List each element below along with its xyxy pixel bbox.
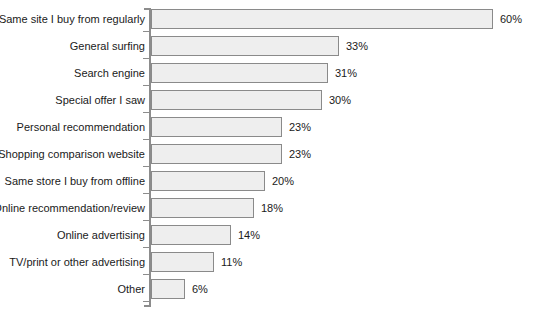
bar <box>151 9 493 29</box>
axis-tick <box>143 301 150 302</box>
axis-tick <box>143 31 150 32</box>
axis-tick <box>143 85 150 86</box>
category-label: Online advertising <box>57 224 145 247</box>
bar-value-label: 23% <box>289 116 311 138</box>
bar <box>151 36 339 56</box>
axis-tick <box>143 274 150 275</box>
bar-value-label: 6% <box>192 278 208 300</box>
bar-row: Search engine31% <box>0 62 536 89</box>
bar-row: Special offer I saw30% <box>0 89 536 116</box>
bar <box>151 252 214 272</box>
axis-tick <box>143 139 150 140</box>
bar <box>151 279 185 299</box>
category-label: Personal recommendation <box>17 116 145 139</box>
bar-value-label: 18% <box>261 197 283 219</box>
bar <box>151 225 231 245</box>
category-label: Other <box>117 278 145 301</box>
category-label: Special offer I saw <box>55 89 145 112</box>
bar-row: Shopping comparison website23% <box>0 143 536 170</box>
bar-row: Personal recommendation23% <box>0 116 536 143</box>
bar <box>151 198 254 218</box>
bar <box>151 90 322 110</box>
category-label: Shopping comparison website <box>0 143 145 166</box>
bar-row: General surfing33% <box>0 35 536 62</box>
bar <box>151 171 265 191</box>
axis-tick <box>143 193 150 194</box>
bar-row: TV/print or other advertising11% <box>0 251 536 278</box>
bar <box>151 117 282 137</box>
axis-tick <box>143 58 150 59</box>
axis-tick <box>143 220 150 221</box>
bar-value-label: 31% <box>335 62 357 84</box>
bar-value-label: 11% <box>221 251 242 273</box>
bar-value-label: 30% <box>329 89 351 111</box>
category-label: Same site I buy from regularly <box>0 8 145 31</box>
category-label: General surfing <box>70 35 145 58</box>
axis-cap-bottom <box>144 305 151 307</box>
bar <box>151 63 328 83</box>
axis-tick <box>143 247 150 248</box>
category-label: Online recommendation/review <box>0 197 145 220</box>
axis-tick <box>143 166 150 167</box>
bar-row: Online recommendation/review18% <box>0 197 536 224</box>
bar-value-label: 33% <box>346 35 368 57</box>
axis-tick <box>143 112 150 113</box>
bar-rows: Same site I buy from regularly60%General… <box>0 8 536 305</box>
bar-value-label: 14% <box>238 224 260 246</box>
bar <box>151 144 282 164</box>
bar-value-label: 23% <box>289 143 311 165</box>
category-label: TV/print or other advertising <box>9 251 145 274</box>
bar-value-label: 60% <box>500 8 522 30</box>
category-label: Search engine <box>74 62 145 85</box>
bar-row: Same store I buy from offline20% <box>0 170 536 197</box>
bar-row: Online advertising14% <box>0 224 536 251</box>
bar-chart: Same site I buy from regularly60%General… <box>0 0 536 317</box>
category-label: Same store I buy from offline <box>5 170 145 193</box>
bar-row: Same site I buy from regularly60% <box>0 8 536 35</box>
bar-value-label: 20% <box>272 170 294 192</box>
bar-row: Other6% <box>0 278 536 305</box>
